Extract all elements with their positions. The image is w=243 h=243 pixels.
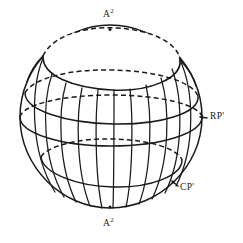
top-pole-marker: [109, 28, 112, 31]
sphere-drawing: [0, 0, 243, 243]
latitude-lower-front-arc: [41, 157, 182, 187]
meridian-line: [96, 90, 102, 208]
right-equator-dot: [201, 116, 204, 119]
top-cap-group: [27, 28, 196, 90]
meridian-line: [152, 78, 167, 199]
label-right-equator-base: RP': [210, 111, 224, 121]
sphere-figure: A2 RP' CP' A2: [0, 0, 243, 243]
bottom-right-dot: [172, 181, 175, 184]
label-bottom-pole: A2: [103, 219, 114, 229]
label-right-equator: RP': [210, 112, 224, 122]
label-bottom-right: CP': [180, 183, 194, 193]
label-bottom-pole-sup: 2: [110, 216, 113, 223]
latitude-upper-front-arc: [25, 93, 198, 124]
label-top-pole-sup: 2: [110, 7, 113, 14]
meridian-line: [113, 90, 114, 208]
meridian-line: [176, 60, 191, 186]
label-bottom-right-base: CP': [180, 182, 194, 192]
label-top-pole: A2: [103, 10, 114, 20]
meridian-line: [78, 88, 90, 206]
meridian-line: [126, 89, 132, 207]
bottom-pole-marker: [109, 206, 112, 209]
